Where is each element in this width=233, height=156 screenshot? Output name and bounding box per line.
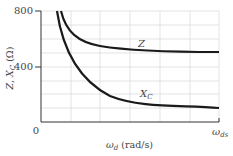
- xc-curve-label: XC: [139, 88, 153, 101]
- y-axis-label: Z, XC (Ω): [4, 47, 17, 91]
- z-curve-label: Z: [137, 38, 146, 49]
- x-axis-label: ωd (rad/s): [106, 139, 153, 152]
- xc-curve: [57, 11, 219, 108]
- chart: Z XC 800 400 0 ωds ωd (rad/s) Z, XC (Ω): [0, 0, 233, 156]
- axes: [35, 11, 219, 122]
- y-tick-0: 0: [33, 125, 39, 136]
- y-tick-800: 800: [14, 5, 33, 16]
- x-tick-wds: ωds: [212, 126, 229, 139]
